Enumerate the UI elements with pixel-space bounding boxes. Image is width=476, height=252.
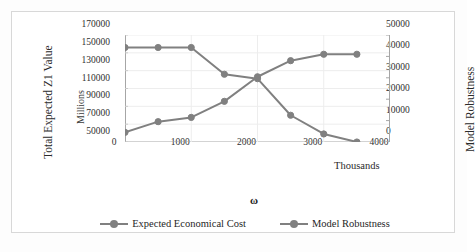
legend-line-marker-icon [100, 219, 128, 229]
series-line-0 [125, 47, 357, 142]
data-point-marker [321, 51, 327, 57]
y-right-tick-label: 10000 [386, 105, 432, 115]
legend-line-marker-icon [280, 219, 308, 229]
data-point-marker [354, 51, 360, 57]
y-left-tick-label: 150000 [64, 37, 110, 47]
data-point-marker [288, 112, 294, 118]
data-point-marker [125, 44, 128, 50]
left-axis-title: Total Expected Z1 Value [42, 45, 54, 159]
y-left-tick-label: 70000 [64, 108, 110, 118]
y-right-tick-label: 0 [386, 126, 432, 136]
data-point-marker [155, 119, 161, 125]
y-left-tick-label: 170000 [64, 19, 110, 29]
plot-svg [125, 35, 390, 142]
data-point-marker [155, 44, 161, 50]
x-axis-unit-label: Thousands [334, 160, 380, 171]
chart-legend: Expected Economical CostModel Robustness [23, 218, 467, 229]
y-left-tick-label: 90000 [64, 90, 110, 100]
data-point-marker [321, 131, 327, 137]
data-point-marker [354, 139, 360, 142]
data-point-marker [221, 71, 227, 77]
y-right-tick-label: 40000 [386, 40, 432, 50]
data-point-marker [188, 44, 194, 50]
y-right-tick-label: 30000 [386, 62, 432, 72]
y-left-tick-label: 130000 [64, 55, 110, 65]
legend-item-1[interactable]: Model Robustness [280, 218, 390, 229]
y-right-tick-label: 50000 [386, 19, 432, 29]
data-point-marker [221, 98, 227, 104]
data-point-marker [125, 129, 128, 135]
legend-item-0[interactable]: Expected Economical Cost [100, 218, 246, 229]
y-right-tick-label: 20000 [386, 83, 432, 93]
y-left-tick-label: 110000 [64, 73, 110, 83]
chart-frame: Total Expected Z1 Value Millions Model R… [11, 11, 455, 233]
data-point-marker [288, 58, 294, 64]
plot-area [125, 35, 390, 142]
x-axis-title: ω [250, 194, 258, 206]
data-point-marker [188, 114, 194, 120]
y-left-tick-label: 50000 [64, 126, 110, 136]
right-axis-title: Model Robustness [464, 67, 476, 152]
legend-label: Model Robustness [312, 218, 390, 229]
data-point-marker [254, 74, 260, 80]
legend-label: Expected Economical Cost [132, 218, 246, 229]
